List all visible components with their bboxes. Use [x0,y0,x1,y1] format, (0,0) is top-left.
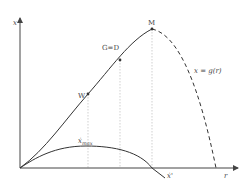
label-m: M [148,19,155,27]
point-m [151,28,154,31]
point-gd [119,59,122,62]
xdot-max-label: ẋmax [78,137,93,146]
lower-curve [20,146,165,178]
main-curve-dashed [152,29,216,168]
label-gd: G=D [102,44,119,52]
xdot-end-label: ẋ' [167,172,173,180]
label-w: W [78,92,86,100]
main-curve [20,29,152,168]
curve-label: x = g(r) [194,67,222,75]
x-axis-label: r [224,172,228,180]
diagram-canvas: x r W G=D M x = g(r) ẋmax ẋ' [0,0,242,186]
point-w [87,93,90,96]
y-axis-label: x [13,19,17,27]
guide-lines [88,29,152,168]
